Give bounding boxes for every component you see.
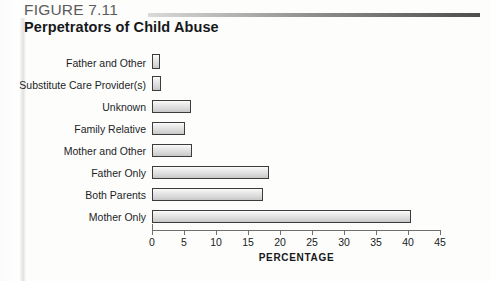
bar-row: Unknown <box>152 96 440 118</box>
x-tick-label: 20 <box>274 236 286 248</box>
bar-rows: Father and OtherSubstitute Care Provider… <box>152 52 440 230</box>
x-tick <box>440 230 441 235</box>
category-label: Mother Only <box>89 206 146 228</box>
bar <box>152 122 185 135</box>
x-tick <box>312 230 313 235</box>
bar <box>152 210 411 223</box>
x-tick <box>184 230 185 235</box>
bar-row: Father Only <box>152 162 440 184</box>
x-axis-line <box>152 230 441 231</box>
bar-row: Substitute Care Provider(s) <box>152 74 440 96</box>
category-label: Substitute Care Provider(s) <box>19 74 146 96</box>
category-label: Father and Other <box>66 52 146 74</box>
x-tick-label: 15 <box>242 236 254 248</box>
x-tick-label: 0 <box>149 236 155 248</box>
bar-row: Mother Only <box>152 206 440 228</box>
x-axis-title: PERCENTAGE <box>152 252 441 263</box>
x-tick <box>280 230 281 235</box>
x-tick-label: 30 <box>338 236 350 248</box>
category-label: Both Parents <box>85 184 146 206</box>
figure-page: FIGURE 7.11 Perpetrators of Child Abuse … <box>0 0 491 281</box>
category-label: Father Only <box>91 162 146 184</box>
x-tick-label: 25 <box>306 236 318 248</box>
bar-row: Both Parents <box>152 184 440 206</box>
x-tick <box>376 230 377 235</box>
bar <box>152 144 192 157</box>
bar-row: Mother and Other <box>152 140 440 162</box>
category-label: Family Relative <box>74 118 146 140</box>
x-tick <box>408 230 409 235</box>
bar <box>152 188 263 201</box>
bar <box>152 54 160 69</box>
x-tick <box>152 230 153 235</box>
bar <box>152 100 191 113</box>
x-tick-label: 35 <box>370 236 382 248</box>
x-tick-label: 10 <box>210 236 222 248</box>
bar <box>152 166 269 179</box>
x-tick <box>248 230 249 235</box>
bar-chart: Father and OtherSubstitute Care Provider… <box>0 48 491 281</box>
header-rule <box>148 13 480 17</box>
x-tick <box>344 230 345 235</box>
figure-label: FIGURE 7.11 <box>24 1 118 19</box>
bar-row: Father and Other <box>152 52 440 74</box>
figure-title: Perpetrators of Child Abuse <box>24 19 219 35</box>
category-label: Mother and Other <box>64 140 146 162</box>
bar-row: Family Relative <box>152 118 440 140</box>
x-tick <box>216 230 217 235</box>
category-label: Unknown <box>102 96 146 118</box>
plot-area: Father and OtherSubstitute Care Provider… <box>152 52 440 230</box>
x-tick-label: 5 <box>181 236 187 248</box>
x-tick-label: 45 <box>434 236 446 248</box>
x-tick-label: 40 <box>402 236 414 248</box>
bar <box>152 76 161 91</box>
